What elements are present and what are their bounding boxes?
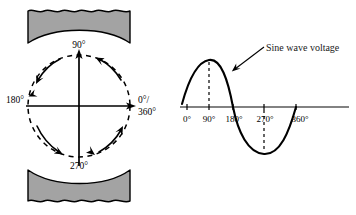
xtick-label-180: 180° [225, 114, 243, 124]
xtick-label-360: 360° [291, 114, 309, 124]
label-270-degrees: 270° [70, 161, 88, 171]
label-90-degrees: 90° [72, 40, 86, 50]
xtick-label-0: 0° [183, 114, 192, 124]
xtick-label-90: 90° [203, 114, 216, 124]
xtick-label-270: 270° [256, 114, 274, 124]
sine-wave-voltage-annotation: Sine wave voltage [266, 42, 340, 53]
label-0-degrees: 0°/ [138, 95, 150, 105]
label-180-degrees: 180° [6, 95, 24, 105]
figure-container: 90° 180° 0°/ 360° 270° Sine wave voltage… [0, 0, 356, 215]
figure-svg: 90° 180° 0°/ 360° 270° Sine wave voltage… [0, 0, 356, 215]
label-360-degrees: 360° [138, 107, 156, 117]
